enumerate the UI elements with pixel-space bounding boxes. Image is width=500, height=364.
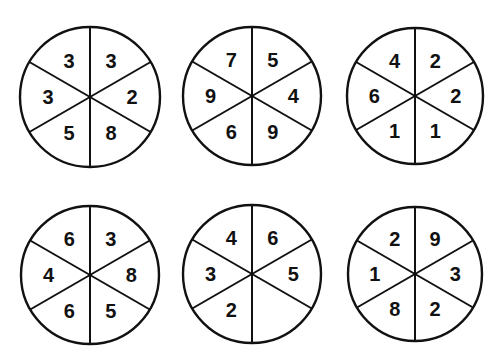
segment-value: 3 (105, 228, 116, 250)
segment-value: 2 (226, 299, 237, 321)
segment-value: 3 (63, 50, 74, 72)
segment-value: 9 (430, 228, 441, 250)
segment-value: 6 (267, 227, 278, 249)
circle-5: 46523 (183, 205, 321, 343)
segment-value: 4 (288, 85, 300, 107)
segment-value: 2 (389, 228, 400, 250)
segment-value: 9 (267, 121, 278, 143)
segment-value: 6 (64, 300, 75, 322)
segment-value: 4 (226, 227, 238, 249)
circle-3: 422116 (347, 28, 483, 164)
segment-value: 4 (43, 264, 55, 286)
segment-value: 4 (389, 50, 401, 72)
segment-value: 8 (126, 264, 137, 286)
segment-value: 6 (226, 121, 237, 143)
segment-value: 8 (105, 122, 116, 144)
segment-value: 3 (42, 86, 53, 108)
segment-value: 5 (267, 49, 278, 71)
segment-value: 5 (63, 122, 74, 144)
circle-2: 754969 (183, 27, 321, 165)
circle-4: 638564 (21, 206, 159, 344)
segment-value: 1 (389, 120, 400, 142)
segment-value: 2 (126, 86, 137, 108)
circle-6: 293281 (348, 207, 482, 341)
segment-value: 8 (389, 298, 400, 320)
segment-value: 2 (430, 50, 441, 72)
segment-value: 5 (288, 263, 299, 285)
segment-value: 1 (430, 120, 441, 142)
segment-value: 2 (450, 85, 461, 107)
segment-value: 1 (369, 263, 380, 285)
circle-1: 332853 (20, 27, 160, 167)
segment-value: 9 (205, 85, 216, 107)
segment-value: 6 (369, 85, 380, 107)
segment-value: 3 (105, 50, 116, 72)
segment-value: 2 (430, 298, 441, 320)
segment-value: 6 (64, 228, 75, 250)
number-wheel-puzzle: 33285375496942211663856446523293281 (0, 0, 500, 364)
segment-value: 7 (226, 49, 237, 71)
segment-value: 3 (450, 263, 461, 285)
segment-value: 3 (205, 263, 216, 285)
segment-value: 5 (105, 300, 116, 322)
